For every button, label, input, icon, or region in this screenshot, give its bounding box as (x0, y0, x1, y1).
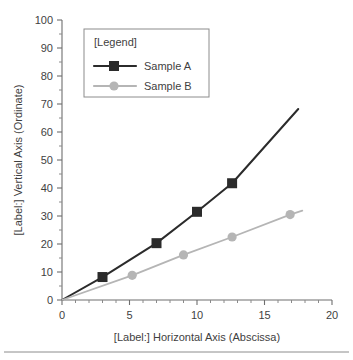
chart-legend: [Legend] Sample A Sample B (84, 29, 209, 97)
data-point-marker (98, 272, 108, 282)
chart-canvas: 0102030405060708090100 05101520 [Legend]… (0, 0, 353, 360)
data-point-marker (179, 250, 188, 259)
x-tick-label: 0 (59, 309, 65, 321)
legend-title: [Legend] (94, 36, 137, 48)
data-point-marker (227, 178, 237, 188)
legend-label-sample-b: Sample B (144, 80, 192, 92)
x-tick-label: 15 (258, 309, 270, 321)
data-point-marker (128, 271, 137, 280)
y-tick-label: 90 (41, 42, 53, 54)
data-point-marker (192, 207, 202, 217)
legend-marker-square-sample-a (109, 61, 119, 71)
legend-marker-circle-sample-b (109, 81, 118, 90)
x-axis-title: [Label:] Horizontal Axis (Abscissa) (114, 331, 280, 343)
y-axis-title: [Label:] Vertical Axis (Ordinate) (12, 84, 24, 235)
data-point-marker (286, 210, 295, 219)
legend-label-sample-a: Sample A (144, 60, 192, 72)
y-tick-label: 100 (35, 14, 53, 26)
y-tick-label: 50 (41, 154, 53, 166)
y-tick-label: 10 (41, 266, 53, 278)
data-point-marker (228, 232, 237, 241)
chart-figure: 0102030405060708090100 05101520 [Legend]… (0, 0, 353, 360)
y-tick-label: 0 (47, 294, 53, 306)
y-tick-label: 60 (41, 126, 53, 138)
data-point-marker (152, 238, 162, 248)
x-tick-label: 5 (126, 309, 132, 321)
x-tick-label: 10 (191, 309, 203, 321)
y-tick-label: 80 (41, 70, 53, 82)
y-tick-label: 70 (41, 98, 53, 110)
y-tick-label: 20 (41, 238, 53, 250)
y-tick-label: 30 (41, 210, 53, 222)
y-tick-label: 40 (41, 182, 53, 194)
x-tick-label: 20 (326, 309, 338, 321)
